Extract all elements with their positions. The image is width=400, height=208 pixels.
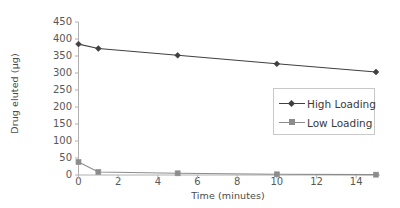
legend-item-high-loading: High Loading bbox=[274, 94, 376, 114]
legend-label-high-loading: High Loading bbox=[307, 98, 376, 110]
legend-label-low-loading: Low Loading bbox=[307, 117, 372, 129]
data-point-marker bbox=[96, 169, 101, 174]
data-point-marker bbox=[76, 160, 81, 165]
legend-marker-square-icon bbox=[279, 116, 305, 130]
data-point-marker bbox=[373, 69, 379, 75]
legend-item-low-loading: Low Loading bbox=[274, 113, 376, 133]
data-point-marker bbox=[274, 61, 280, 67]
x-axis-title: Time (minutes) bbox=[80, 190, 376, 201]
data-point-marker bbox=[76, 41, 82, 47]
series-line-low-loading bbox=[79, 162, 377, 175]
data-point-marker bbox=[274, 172, 279, 177]
data-point-marker bbox=[175, 171, 180, 176]
data-point-marker bbox=[175, 52, 181, 58]
series-line-high-loading bbox=[79, 44, 377, 72]
legend-marker-diamond-icon bbox=[279, 97, 305, 111]
data-point-marker bbox=[95, 46, 101, 52]
data-point-marker bbox=[374, 172, 379, 177]
chart-container: Drug eluted (µg) 45040035030025020015010… bbox=[0, 0, 400, 208]
chart-legend: High Loading Low Loading bbox=[273, 88, 375, 135]
